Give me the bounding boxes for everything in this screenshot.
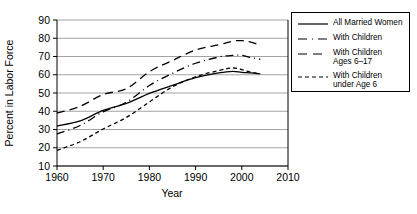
- series-line: [57, 71, 260, 126]
- y-tick-label: 40: [38, 105, 50, 117]
- gridlines: [57, 20, 288, 166]
- legend-swatch-solid: [297, 19, 333, 29]
- series-line: [57, 55, 260, 134]
- y-tick-label: 80: [38, 32, 50, 44]
- legend-item: With ChildrenAges 6–17: [297, 48, 405, 67]
- chart-legend: All Married Women With Children With Chi…: [291, 12, 410, 92]
- legend-item: With Childrenunder Age 6: [297, 71, 405, 90]
- legend-swatch-dashed: [297, 72, 333, 82]
- y-tick-label: 60: [38, 68, 50, 80]
- legend-item: All Married Women: [297, 18, 405, 29]
- y-tick-label: 20: [38, 141, 50, 153]
- legend-label: With Childrenunder Age 6: [333, 71, 382, 90]
- legend-label: With ChildrenAges 6–17: [333, 48, 382, 67]
- y-tick-label: 30: [38, 123, 50, 135]
- legend-item: With Children: [297, 33, 405, 44]
- x-tick-label: 1960: [45, 171, 69, 183]
- x-axis-title: Year: [161, 187, 183, 199]
- x-tick-label: 2010: [276, 171, 300, 183]
- y-tick-label: 70: [38, 50, 50, 62]
- chart-container: 908070605040302010 196019701980199020002…: [0, 0, 417, 214]
- y-axis-tick-labels: 908070605040302010: [38, 14, 50, 172]
- x-tick-label: 2000: [230, 171, 254, 183]
- y-tick-label: 50: [38, 87, 50, 99]
- data-series-group: [57, 41, 260, 151]
- x-tick-label: 1970: [92, 171, 116, 183]
- series-line: [57, 68, 260, 150]
- legend-label: With Children: [333, 33, 382, 42]
- y-axis-title: Percent in Labor Force: [3, 39, 15, 146]
- x-tick-label: 1990: [184, 171, 208, 183]
- legend-swatch-long-dash: [297, 49, 333, 59]
- y-tick-label: 90: [38, 14, 50, 26]
- legend-swatch-dash-dot: [297, 34, 333, 44]
- y-tick-label: 10: [38, 160, 50, 172]
- y-axis-ticks: [53, 20, 57, 166]
- series-line: [57, 41, 260, 114]
- x-axis-ticks: [57, 166, 288, 170]
- legend-label: All Married Women: [333, 18, 402, 27]
- x-axis-tick-labels: 196019701980199020002010: [45, 171, 300, 183]
- x-tick-label: 1980: [138, 171, 162, 183]
